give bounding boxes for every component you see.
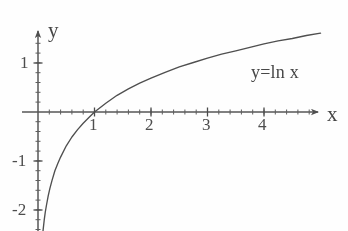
x-tick-label-2: 2 [145, 116, 154, 133]
x-tick-label-3: 3 [202, 116, 211, 133]
y-axis-label: y [48, 20, 59, 41]
y-tick-label-minus-1: -1 [12, 152, 26, 169]
x-tick-label-1: 1 [89, 116, 98, 133]
y-tick-label-minus-2: -2 [12, 201, 26, 218]
function-plot-figure: y x 1 -1 -2 1 2 3 4 y=ln x [0, 0, 348, 231]
x-axis-label: x [327, 104, 338, 125]
curve-equation-annotation: y=ln x [251, 63, 299, 81]
y-tick-label-1: 1 [20, 54, 29, 71]
x-tick-label-4: 4 [258, 116, 267, 133]
